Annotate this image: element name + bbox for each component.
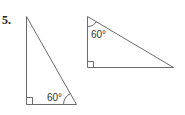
right-angle-label: 60°: [91, 29, 106, 40]
angle-arc: [88, 22, 97, 27]
angle-arc: [64, 94, 71, 105]
right-angle-marker: [88, 62, 94, 68]
right-angle-marker: [27, 98, 33, 105]
left-angle-label: 60°: [47, 92, 62, 103]
right-triangle: [88, 17, 174, 68]
triangles-diagram: 60° 60°: [0, 0, 185, 115]
